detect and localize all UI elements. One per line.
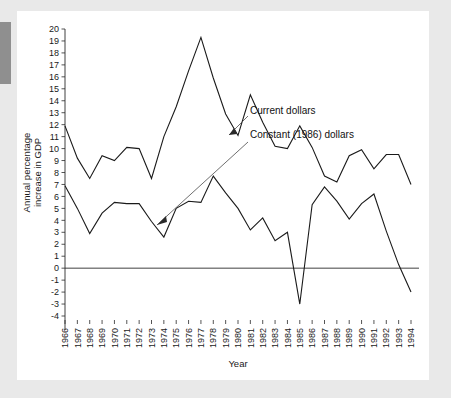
series-group: [65, 37, 411, 304]
x-tick-label: 1976: [184, 328, 194, 348]
x-axis-title: Year: [228, 358, 247, 369]
x-tick-label: 1994: [406, 328, 416, 348]
x-tick-label: 1989: [344, 328, 354, 348]
y-tick-label: 19: [49, 36, 59, 46]
x-tick-label: 1980: [233, 328, 243, 348]
x-tick-label: 1993: [394, 328, 404, 348]
y-tick-label: 12: [49, 120, 59, 130]
x-tick-label: 1969: [97, 328, 107, 348]
y-tick-label: 14: [49, 96, 59, 106]
annotation-group: Current dollarsConstant (1986) dollars: [157, 105, 354, 225]
y-tick-label: 2: [54, 239, 59, 249]
x-tick-label: 1970: [110, 328, 120, 348]
x-tick-label: 1979: [221, 328, 231, 348]
y-axis-title-line2: increase in GDP: [32, 138, 43, 207]
x-tick-label: 1988: [332, 328, 342, 348]
y-tick-label: 6: [54, 192, 59, 202]
x-tick-label: 1971: [122, 328, 132, 348]
y-tick-label: 4: [54, 216, 59, 226]
y-tick-label: 11: [50, 132, 59, 142]
x-tick-label: 1984: [283, 328, 293, 348]
y-tick-label: 5: [54, 204, 59, 214]
y-tick-label: -2: [51, 287, 59, 297]
y-tick-label: 10: [49, 144, 59, 154]
x-tick-label: 1985: [295, 328, 305, 348]
y-tick-label: -1: [51, 275, 59, 285]
x-tick-label: 1977: [196, 328, 206, 348]
chart-figure: 20191817161514131211109876543210-1-2-3-4…: [17, 11, 429, 380]
x-tick-label: 1992: [381, 328, 391, 348]
x-tick-label: 1968: [85, 328, 95, 348]
leader-line-constant-dollars: [157, 142, 248, 225]
x-tick-label: 1986: [307, 328, 317, 348]
x-tick-label: 1972: [134, 328, 144, 348]
x-tick-label: 1975: [171, 328, 181, 348]
y-tick-label: 20: [49, 24, 59, 34]
y-tick-label: 1: [54, 251, 59, 261]
y-tick-label: 17: [49, 60, 59, 70]
page-background: 20191817161514131211109876543210-1-2-3-4…: [0, 0, 451, 398]
y-tick-label: 16: [49, 72, 59, 82]
x-tick-label: 1983: [270, 328, 280, 348]
y-tick-label: 3: [54, 227, 59, 237]
y-axis-title-line1: Annual percentage: [21, 133, 32, 213]
y-tick-label: 13: [49, 108, 59, 118]
series-line-current-dollars: [65, 37, 411, 184]
annotation-current-dollars: Current dollars: [250, 105, 316, 116]
x-tick-label: 1973: [147, 328, 157, 348]
axes-group: 20191817161514131211109876543210-1-2-3-4…: [49, 24, 419, 348]
x-tick-label: 1966: [60, 328, 70, 348]
y-tick-label: 7: [54, 180, 59, 190]
x-tick-label: 1978: [208, 328, 218, 348]
x-tick-label: 1982: [258, 328, 268, 348]
y-tick-label: 9: [54, 156, 59, 166]
page-edge-tab: [0, 22, 11, 84]
x-tick-label: 1974: [159, 328, 169, 348]
x-tick-label: 1987: [320, 328, 330, 348]
y-tick-label: -4: [51, 311, 59, 321]
y-tick-label: 0: [54, 263, 59, 273]
x-tick-label: 1990: [357, 328, 367, 348]
x-tick-label: 1981: [246, 328, 256, 348]
annotation-constant-dollars: Constant (1986) dollars: [250, 129, 354, 140]
x-tick-label: 1967: [73, 328, 83, 348]
y-tick-label: 8: [54, 168, 59, 178]
y-tick-label: -3: [51, 299, 59, 309]
y-tick-label: 18: [49, 48, 59, 58]
arrowhead-constant-dollars: [157, 216, 167, 225]
y-tick-label: 15: [49, 84, 59, 94]
gdp-line-chart: 20191817161514131211109876543210-1-2-3-4…: [17, 11, 429, 380]
series-line-constant-dollars: [65, 176, 411, 304]
x-tick-label: 1991: [369, 328, 379, 348]
